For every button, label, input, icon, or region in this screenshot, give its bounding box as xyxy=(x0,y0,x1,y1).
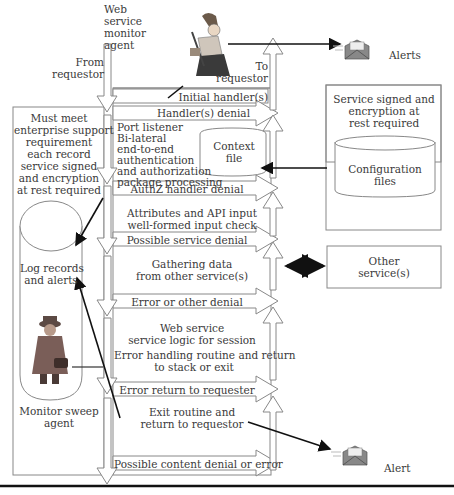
other-services-label: Other service(s) xyxy=(327,255,441,279)
stage-possible-service-denial: Possible service denial xyxy=(114,234,260,246)
monitor-sweep-agent-label: Monitor sweep agent xyxy=(14,405,104,429)
to-requestor-label: To requestor xyxy=(212,60,268,84)
stage-handlers-denial: Handler(s) denial xyxy=(120,107,250,119)
envelope-alert-icon xyxy=(333,40,369,59)
envelope-alert-icon xyxy=(331,446,367,465)
stage-error-handling: Error handling routine and return to sta… xyxy=(114,349,274,373)
stage-web-service-logic: Web service service logic for session xyxy=(114,322,270,346)
stage-initial-handlers: Initial handler(s) xyxy=(120,91,268,103)
stage-attributes-check: Attributes and API input well-formed inp… xyxy=(114,207,270,231)
alert-label: Alert xyxy=(384,462,410,474)
config-box-title: Service signed and encryption at rest re… xyxy=(327,93,441,129)
context-file-label: Context file xyxy=(205,140,263,164)
stage-authz-denial: AuthZ handler denial xyxy=(114,183,260,195)
stage-gathering-data: Gathering data from other service(s) xyxy=(114,258,270,282)
stage-content-denial: Possible content denial or error xyxy=(114,458,260,470)
from-requestor-label: From requestor xyxy=(52,56,104,80)
left-requirement-text: Must meet enterprise support requirement… xyxy=(14,112,104,196)
stage-exit-routine: Exit routine and return to requestor xyxy=(114,406,270,430)
log-records-label: Log records and alerts xyxy=(20,262,82,286)
stage-error-other-denial: Error or other denial xyxy=(114,296,260,308)
web-service-monitor-agent-label: Web service monitor agent xyxy=(104,3,146,51)
alerts-label: Alerts xyxy=(389,49,421,61)
configuration-files-label: Configuration files xyxy=(335,163,435,187)
stage-error-return: Error return to requester xyxy=(114,384,260,396)
